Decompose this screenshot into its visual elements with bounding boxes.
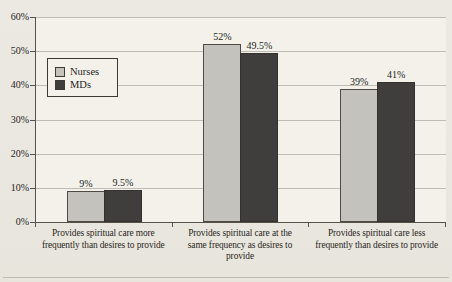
bar-value-label: 39%	[350, 76, 368, 87]
y-axis-tick-label: 30%	[0, 114, 29, 126]
legend-swatch-mds	[55, 80, 65, 90]
legend-label-nurses: Nurses	[70, 66, 99, 77]
bar-value-label: 9.5%	[112, 177, 133, 188]
bar-group: 39%41%	[309, 17, 446, 222]
x-axis-tick	[35, 223, 36, 227]
bar-value-label: 49.5%	[247, 40, 273, 51]
y-axis-tick	[30, 85, 35, 86]
legend-swatch-nurses	[55, 67, 65, 77]
bar-value-label: 9%	[79, 178, 92, 189]
y-axis-tick-label: 40%	[0, 79, 29, 91]
bar-mds: 49.5%	[240, 53, 278, 222]
y-axis-tick-label: 60%	[0, 11, 29, 23]
x-axis-tick	[308, 223, 309, 227]
y-axis-tick	[30, 17, 35, 18]
bar-nurses: 52%	[203, 44, 241, 222]
bar-nurses: 9%	[67, 191, 105, 222]
y-axis-tick	[30, 188, 35, 189]
y-axis-tick-label: 10%	[0, 182, 29, 194]
y-axis-tick-label: 50%	[0, 45, 29, 57]
plot-area: 9%9.5%52%49.5%39%41%	[35, 17, 446, 223]
y-axis-tick	[30, 154, 35, 155]
bar-value-label: 52%	[213, 31, 231, 42]
y-axis-tick	[30, 120, 35, 121]
chart: 9%9.5%52%49.5%39%41% Nurses MDs 0%10%20%…	[0, 0, 452, 282]
bar-group: 52%49.5%	[173, 17, 310, 222]
legend: Nurses MDs	[47, 58, 118, 97]
legend-item-mds: MDs	[55, 79, 117, 90]
bar-nurses: 39%	[340, 89, 378, 222]
bar-value-label: 41%	[387, 69, 405, 80]
page-bottom-rule	[3, 277, 449, 278]
bar-group: 9%9.5%	[36, 17, 173, 222]
bar-mds: 9.5%	[104, 190, 142, 222]
legend-item-nurses: Nurses	[55, 66, 117, 77]
legend-label-mds: MDs	[70, 79, 91, 90]
x-axis-tick	[445, 223, 446, 227]
y-axis-tick-label: 20%	[0, 148, 29, 160]
y-axis-tick-label: 0%	[0, 216, 29, 228]
x-axis-tick	[172, 223, 173, 227]
category-label: Provides spiritual care at the same freq…	[165, 228, 315, 263]
y-axis-tick	[30, 51, 35, 52]
category-label: Provides spiritual care more frequently …	[28, 228, 178, 251]
bar-mds: 41%	[377, 82, 415, 222]
category-label: Provides spiritual care less frequently …	[302, 228, 452, 251]
